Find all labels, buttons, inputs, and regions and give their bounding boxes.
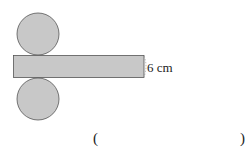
cylinder-net bbox=[0, 0, 252, 158]
open-paren: ( bbox=[93, 130, 98, 147]
lateral-rectangle bbox=[14, 56, 145, 78]
bottom-circle bbox=[17, 78, 59, 120]
top-circle bbox=[17, 13, 59, 55]
height-label: 6 cm bbox=[147, 60, 173, 76]
close-paren: ) bbox=[240, 130, 245, 147]
